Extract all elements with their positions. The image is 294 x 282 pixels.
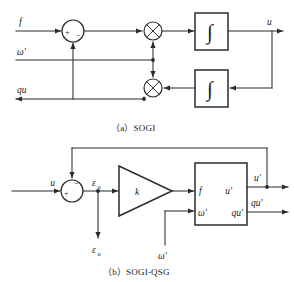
label-output-u: u [267, 17, 272, 27]
sogi-block-input-omega: ω′ [198, 208, 208, 218]
sogi-block-output-qu-prime: qu′ [231, 208, 244, 218]
label-input-u-b: u [50, 178, 55, 188]
label-output-qu-prime: qu′ [251, 198, 264, 208]
sum-sign-left-b: + [64, 189, 69, 198]
label-input-omega-prime-b: ω′ [158, 251, 168, 261]
label-input-qu: qu [17, 85, 27, 95]
figure-root: ∫ ∫ + − f ω′ qu u [0, 0, 294, 282]
label-input-omega-prime: ω′ [17, 47, 27, 57]
label-epsilon-signal: ε [92, 178, 96, 188]
label-output-epsilon-u-subscript: u [98, 250, 102, 257]
label-output-u-prime: u′ [254, 173, 262, 183]
block-diagram-svg: ∫ ∫ + − f ω′ qu u [0, 0, 294, 282]
sum-sign-bottom-a: − [76, 31, 81, 40]
caption-panel-b: （b）SOGI-QSG [103, 267, 170, 277]
caption-panel-a: （a）SOGI [111, 123, 155, 133]
sum-sign-top-b: − [74, 179, 79, 188]
label-output-epsilon-u: ε [92, 245, 96, 255]
integrator-bottom-glyph: ∫ [205, 77, 214, 102]
sum-sign-left-a: + [65, 28, 70, 37]
label-epsilon-signal-subscript: u [98, 183, 102, 190]
sogi-block-output-u-prime: u′ [225, 186, 233, 196]
junction-dot-qu-a [142, 97, 146, 101]
label-input-f: f [19, 17, 23, 27]
integrator-top-glyph: ∫ [205, 20, 214, 45]
gain-triangle-b [119, 166, 172, 216]
